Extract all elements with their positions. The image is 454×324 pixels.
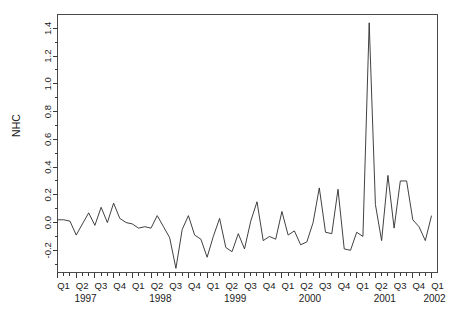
y-tick-label: -0.2 [42, 242, 53, 258]
x-tick-label-quarter: Q4 [113, 280, 126, 291]
x-tick-label-quarter: Q3 [319, 280, 332, 291]
x-tick-label-quarter: Q1 [207, 280, 220, 291]
x-tick-label-quarter: Q1 [282, 280, 295, 291]
y-tick-label: 0.8 [42, 105, 53, 118]
x-axis-year-label: 1999 [224, 293, 247, 304]
x-tick-label-quarter: Q2 [76, 280, 89, 291]
line-chart: -0.20.00.20.40.60.81.01.21.4Q1Q2Q3Q4Q1Q2… [0, 0, 454, 324]
x-tick-label-quarter: Q1 [132, 280, 145, 291]
x-tick-label-quarter: Q4 [263, 280, 276, 291]
x-tick-label-quarter: Q4 [338, 280, 351, 291]
data-series-line-nhc [58, 23, 432, 269]
y-tick-label: 1.4 [42, 22, 53, 35]
chart-container: -0.20.00.20.40.60.81.01.21.4Q1Q2Q3Q4Q1Q2… [0, 0, 454, 324]
x-tick-label-quarter: Q2 [375, 280, 388, 291]
x-axis-year-label: 1998 [149, 293, 172, 304]
y-tick-label: 1.2 [42, 50, 53, 63]
x-tick-label-quarter: Q1 [57, 280, 70, 291]
y-tick-label: 0.4 [42, 160, 53, 173]
x-axis-year-label: 2000 [299, 293, 322, 304]
x-tick-label-quarter: Q1 [356, 280, 369, 291]
x-tick-label-quarter: Q2 [151, 280, 164, 291]
x-axis-year-label: 2002 [423, 293, 446, 304]
x-tick-label-quarter: Q2 [300, 280, 313, 291]
x-axis-year-label: 2001 [374, 293, 397, 304]
x-tick-label-quarter: Q1 [431, 280, 444, 291]
x-tick-label-quarter: Q3 [169, 280, 182, 291]
x-tick-label-quarter: Q4 [412, 280, 425, 291]
y-tick-label: 1.0 [42, 77, 53, 90]
x-tick-label-quarter: Q3 [95, 280, 108, 291]
x-tick-label-quarter: Q3 [394, 280, 407, 291]
x-tick-label-quarter: Q2 [225, 280, 238, 291]
x-tick-label-quarter: Q3 [244, 280, 257, 291]
y-axis-title: NHC [10, 114, 22, 137]
x-tick-label-quarter: Q4 [188, 280, 201, 291]
y-tick-label: 0.2 [42, 188, 53, 201]
y-tick-label: 0.6 [42, 133, 53, 146]
x-axis-year-label: 1997 [74, 293, 97, 304]
y-tick-label: 0.0 [42, 216, 53, 229]
